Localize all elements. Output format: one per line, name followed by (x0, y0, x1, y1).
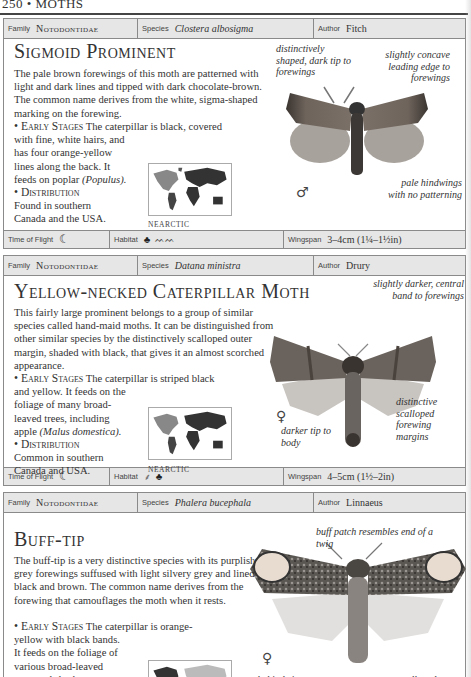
footer-bar: Time of Flight ☾ Habitat ♣ ᨓᨓ Wingspan 3… (4, 230, 465, 248)
annotation-tip: distinctively shaped, dark tip to forewi… (276, 43, 356, 78)
early-stages: • Early Stages The caterpillar is black,… (14, 120, 279, 226)
wingspan-cell: Wingspan 3–4cm (1¼–1½in) (284, 231, 465, 248)
early-stages-text: and yellow. It feeds on the (14, 386, 126, 397)
early-stages-text: foliage of many broad- (14, 399, 111, 410)
page-folio: 250 • MOTHS (2, 0, 84, 12)
annotation-body-tip: darker tip to body (281, 425, 341, 448)
host-plant: (Malus domestica). (40, 426, 122, 437)
region-label: NEARCTIC (148, 465, 190, 474)
time-of-flight-cell: Time of Flight ☾ (4, 231, 110, 248)
early-stages-heading: • Early Stages (14, 620, 83, 632)
time-of-flight-label: Time of Flight (8, 235, 53, 244)
distribution-text: Found in southern (14, 200, 91, 211)
early-stages-text: feeds on poplar (14, 174, 82, 185)
early-stages: • Early Stages The caterpillar is orange… (14, 620, 279, 677)
author-cell: Author Linnaeus (314, 493, 465, 512)
species-value: Clostera albosigma (175, 23, 254, 34)
entry-yellow-necked-caterpillar-moth: Family Notodontidae Species Datana minis… (3, 255, 466, 486)
family-value: Notodontidae (36, 497, 98, 508)
entry-description: This fairly large prominent belongs to a… (14, 306, 276, 372)
early-stages-text: It feeds on the foliage of (14, 647, 118, 658)
author-label: Author (318, 24, 340, 33)
entry-title: Buff-tip (14, 528, 85, 551)
early-stages-text: apple (14, 426, 40, 437)
distribution-text: Canada and the USA. (14, 213, 106, 224)
info-bar: Family Notodontidae Species Datana minis… (4, 256, 465, 276)
info-bar: Family Notodontidae Species Clostera alb… (4, 19, 465, 39)
author-label: Author (318, 261, 340, 270)
species-cell: Species Clostera albosigma (138, 19, 314, 38)
family-value: Notodontidae (36, 260, 98, 271)
annotation-central-band: slightly darker, central band to forewin… (354, 278, 464, 301)
early-stages-text: The caterpillar is orange- (86, 621, 193, 632)
species-label: Species (142, 24, 169, 33)
early-stages: • Early Stages The caterpillar is stripe… (14, 372, 279, 478)
page-header: 250 • MOTHS (0, 0, 471, 17)
distribution-heading: • Distribution (14, 438, 79, 450)
early-stages-text: yellow with black bands. (14, 634, 120, 645)
entry-description: The pale brown forewings of this moth ar… (14, 67, 276, 120)
entry-title: Sigmoid Prominent (14, 40, 176, 63)
deciduous-tree-icon: ♣ (144, 234, 151, 245)
wingspan-label: Wingspan (288, 235, 321, 244)
family-cell: Family Notodontidae (4, 256, 138, 275)
wingspan-label: Wingspan (288, 472, 321, 481)
wingspan-value: 3–4cm (1¼–1½in) (327, 234, 401, 245)
family-value: Notodontidae (36, 23, 98, 34)
early-stages-text: leaved trees, including (14, 413, 110, 424)
annotation-hindwings: pale hindwings with no patterning (382, 177, 462, 200)
entry-body: Yellow-necked Caterpillar Moth This fair… (4, 276, 465, 467)
entry-body: Buff-tip The buff-tip is a very distinct… (4, 513, 465, 677)
species-label: Species (142, 261, 169, 270)
early-stages-heading: • Early Stages (14, 372, 83, 384)
early-stages-text: with fine, white hairs, and (14, 134, 125, 145)
distribution-text: Canada and USA. (14, 465, 90, 476)
author-value: Drury (346, 260, 370, 271)
male-symbol-icon: ♂ (296, 184, 309, 200)
species-cell: Species Phalera bucephala (138, 493, 314, 512)
early-stages-text: The caterpillar is striped black (86, 373, 215, 384)
distribution-map (148, 407, 232, 460)
female-symbol-icon: ♀ (262, 650, 272, 666)
author-value: Fitch (346, 23, 367, 34)
species-cell: Species Datana ministra (138, 256, 314, 275)
page-edge-shadow (465, 0, 471, 677)
species-label: Species (142, 498, 169, 507)
annotation-leading-edge: slightly concave leading edge to forewin… (370, 49, 450, 84)
family-label: Family (8, 24, 30, 33)
author-value: Linnaeus (346, 497, 383, 508)
family-cell: Family Notodontidae (4, 19, 138, 38)
author-cell: Author Fitch (314, 19, 465, 38)
annotation-buff-patch: buff patch resembles end of a twig (316, 526, 436, 549)
world-map-icon (149, 661, 231, 677)
entry-description: The buff-tip is a very distinctive speci… (14, 554, 276, 607)
header-rule (0, 13, 468, 15)
habitat-cell: Habitat ♣ ᨓᨓ (110, 231, 284, 248)
wingspan-cell: Wingspan 4–5cm (1½–2in) (284, 468, 465, 485)
entry-buff-tip: Family Notodontidae Species Phalera buce… (3, 492, 466, 677)
early-stages-text: The caterpillar is black, covered (86, 121, 222, 132)
author-label: Author (318, 498, 340, 507)
region-label: NEARCTIC (148, 220, 190, 229)
wetland-icon: ᨓᨓ (155, 235, 175, 245)
distribution-map (148, 163, 232, 216)
habitat-label: Habitat (114, 235, 138, 244)
info-bar: Family Notodontidae Species Phalera buce… (4, 493, 465, 513)
early-stages-text: lines along the back. It (14, 161, 110, 172)
entry-sigmoid-prominent: Family Notodontidae Species Clostera alb… (3, 18, 466, 249)
species-value: Phalera bucephala (175, 497, 251, 508)
distribution-text: Common in southern (14, 452, 103, 463)
world-map-icon (149, 164, 231, 215)
family-cell: Family Notodontidae (4, 493, 138, 512)
author-cell: Author Drury (314, 256, 465, 275)
family-label: Family (8, 498, 30, 507)
crescent-moon-icon: ☾ (59, 232, 70, 247)
entry-body: Sigmoid Prominent The pale brown forewin… (4, 39, 465, 230)
annotation-scalloped-margins: distinctive scalloped forewing margins (396, 396, 462, 442)
distribution-heading: • Distribution (14, 186, 79, 198)
early-stages-text: various broad-leaved (14, 661, 103, 672)
entry-title: Yellow-necked Caterpillar Moth (14, 280, 310, 303)
early-stages-heading: • Early Stages (14, 120, 83, 132)
wingspan-value: 4–5cm (1½–2in) (327, 471, 394, 482)
female-symbol-icon: ♀ (276, 408, 286, 424)
